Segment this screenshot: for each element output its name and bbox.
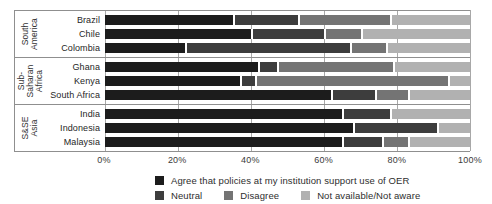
bar-segment-disagree (277, 62, 394, 72)
legend-item-disagree: Disagree (224, 190, 279, 201)
legend-swatch-neutral (155, 191, 164, 200)
bar-segment-agree (105, 62, 258, 72)
x-axis: 0%20%40%60%80%100% (104, 155, 470, 170)
table-row: Kenya (45, 74, 470, 88)
table-row: India (45, 107, 470, 121)
legend-label: Neutral (171, 190, 202, 201)
stacked-bar-india (105, 109, 470, 119)
bar-segment-agree (105, 15, 233, 25)
bar-segment-agree (105, 90, 331, 100)
bar-segment-neutral (240, 76, 255, 86)
legend-item-agree: Agree that policies at my institution su… (155, 175, 409, 186)
region-rows: BrazilChileColombia (45, 13, 470, 55)
region-rows: IndiaIndonesiaMalaysia (45, 107, 470, 149)
region-group-1: South AmericaBrazilChileColombia (15, 10, 470, 57)
bar-segment-agree (105, 43, 185, 53)
bar-segment-not-available (390, 109, 470, 119)
x-tick-label: 60% (314, 155, 333, 165)
table-row: Brazil (45, 13, 470, 27)
bar-segment-not-available (390, 15, 470, 25)
country-label: Colombia (45, 43, 105, 53)
bar-segment-neutral (342, 137, 382, 147)
stacked-bar-chile (105, 29, 470, 39)
bar-segment-not-available (361, 29, 471, 39)
region-label-text: S&SE Asia (21, 116, 39, 139)
bar-segment-neutral (331, 90, 375, 100)
table-row: Chile (45, 27, 470, 41)
legend-label: Not available/Not aware (317, 190, 420, 201)
bar-segment-neutral (258, 62, 276, 72)
bar-segment-agree (105, 29, 251, 39)
legend-label: Disagree (240, 190, 279, 201)
table-row: Colombia (45, 41, 470, 55)
x-tick-label: 20% (168, 155, 187, 165)
legend-item-not-available: Not available/Not aware (301, 190, 420, 201)
legend-row-2: NeutralDisagreeNot available/Not aware (155, 190, 470, 201)
region-rows: GhanaKenyaSouth Africa (45, 60, 470, 102)
country-label: India (45, 109, 105, 119)
legend-swatch-not-available (301, 191, 310, 200)
stacked-bar-south-africa (105, 90, 470, 100)
region-label-text: South America (21, 18, 39, 50)
x-tick-label: 40% (241, 155, 260, 165)
bar-segment-disagree (255, 76, 448, 86)
bar-segment-disagree (382, 137, 408, 147)
bar-segment-neutral (353, 123, 437, 133)
bar-segment-neutral (233, 15, 299, 25)
legend-item-neutral: Neutral (155, 190, 202, 201)
legend-label: Agree that policies at my institution su… (171, 175, 409, 186)
bar-segment-neutral (342, 109, 389, 119)
plot-area: South AmericaBrazilChileColombiaSub- Sah… (14, 10, 470, 152)
oer-policy-stacked-bar-chart: South AmericaBrazilChileColombiaSub- Sah… (14, 10, 470, 201)
x-tick-label: 100% (458, 155, 482, 165)
bar-segment-disagree (350, 43, 387, 53)
stacked-bar-malaysia (105, 137, 470, 147)
region-label: South America (15, 13, 45, 55)
country-label: Malaysia (45, 137, 105, 147)
legend: Agree that policies at my institution su… (155, 175, 470, 201)
region-group-2: Sub- Saharan AfricaGhanaKenyaSouth Afric… (15, 57, 470, 104)
country-label: Indonesia (45, 123, 105, 133)
region-label: S&SE Asia (15, 107, 45, 149)
table-row: Indonesia (45, 121, 470, 135)
table-row: South Africa (45, 88, 470, 102)
bar-segment-disagree (324, 29, 361, 39)
country-label: Brazil (45, 15, 105, 25)
bar-segment-agree (105, 76, 240, 86)
stacked-bar-indonesia (105, 123, 470, 133)
bar-segment-neutral (251, 29, 324, 39)
bar-segment-not-available (408, 137, 470, 147)
x-tick-label: 0% (97, 155, 110, 165)
bar-segment-not-available (393, 62, 470, 72)
region-group-3: S&SE AsiaIndiaIndonesiaMalaysia (15, 104, 470, 151)
legend-swatch-agree (155, 176, 164, 185)
region-label-text: Sub- Saharan Africa (17, 65, 44, 98)
bar-segment-agree (105, 109, 342, 119)
stacked-bar-ghana (105, 62, 470, 72)
legend-row-1: Agree that policies at my institution su… (155, 175, 470, 186)
region-label: Sub- Saharan Africa (15, 60, 45, 102)
country-label: Chile (45, 29, 105, 39)
bar-segment-not-available (437, 123, 470, 133)
bar-segment-disagree (298, 15, 389, 25)
bar-segment-agree (105, 137, 342, 147)
bar-segment-not-available (408, 90, 470, 100)
table-row: Malaysia (45, 135, 470, 149)
bar-segment-neutral (185, 43, 349, 53)
table-row: Ghana (45, 60, 470, 74)
bar-segment-not-available (448, 76, 470, 86)
stacked-bar-kenya (105, 76, 470, 86)
country-label: South Africa (45, 90, 105, 100)
country-label: Kenya (45, 76, 105, 86)
stacked-bar-colombia (105, 43, 470, 53)
bar-segment-not-available (386, 43, 470, 53)
bar-segment-agree (105, 123, 353, 133)
legend-swatch-disagree (224, 191, 233, 200)
x-tick-label: 80% (387, 155, 406, 165)
bar-segment-disagree (375, 90, 408, 100)
stacked-bar-brazil (105, 15, 470, 25)
country-label: Ghana (45, 62, 105, 72)
